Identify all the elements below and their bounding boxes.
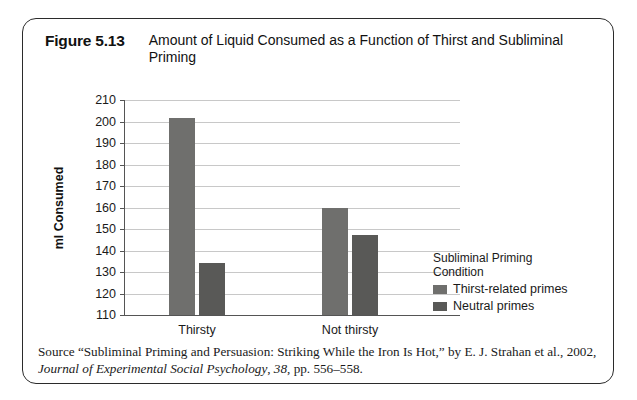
y-axis-tick-mark bbox=[120, 251, 125, 252]
y-axis-tick-label: 150 bbox=[95, 222, 116, 236]
legend-title-line-2: Condition bbox=[433, 266, 613, 280]
y-axis-tick-mark bbox=[120, 122, 125, 123]
y-axis-tick-label: 170 bbox=[95, 179, 116, 193]
chart-legend: Subliminal Priming Condition Thirst-rela… bbox=[433, 252, 613, 313]
y-axis-title-label: ml Consumed bbox=[52, 166, 66, 249]
source-line-1: Source “Subliminal Priming and Persuasio… bbox=[38, 344, 596, 359]
figure-number: Figure 5.13 bbox=[45, 32, 125, 50]
bar bbox=[322, 208, 348, 316]
y-axis-tick-label: 210 bbox=[95, 93, 116, 107]
y-axis-tick-label: 200 bbox=[95, 115, 116, 129]
legend-title-line-1: Subliminal Priming bbox=[433, 252, 613, 266]
y-axis-tick-mark bbox=[120, 294, 125, 295]
y-axis-tick-mark bbox=[120, 165, 125, 166]
source-pages: , pp. 556–558. bbox=[287, 361, 363, 376]
source-separator: , bbox=[267, 361, 274, 376]
source-journal-title: Journal of Experimental Social Psycholog… bbox=[38, 361, 267, 376]
bar bbox=[199, 263, 225, 315]
legend-entry: Neutral primes bbox=[433, 299, 613, 313]
legend-swatch bbox=[433, 285, 447, 294]
legend-label: Thirst-related primes bbox=[453, 282, 568, 296]
x-axis-category-label: Not thirsty bbox=[322, 323, 378, 337]
y-axis-tick-label: 120 bbox=[95, 287, 116, 301]
y-axis-tick-mark bbox=[120, 186, 125, 187]
y-axis-tick-label: 110 bbox=[96, 308, 116, 322]
figure-header: Figure 5.13 Amount of Liquid Consumed as… bbox=[45, 32, 585, 66]
bar bbox=[169, 118, 195, 315]
y-axis-tick-label: 180 bbox=[95, 158, 116, 172]
y-axis-tick-mark bbox=[120, 208, 125, 209]
source-note: Source “Subliminal Priming and Persuasio… bbox=[38, 344, 598, 377]
plot-area: 110120130140150160170180190200210 Thirst… bbox=[124, 100, 460, 316]
legend-entries: Thirst-related primesNeutral primes bbox=[433, 282, 613, 313]
source-volume: 38 bbox=[274, 361, 287, 376]
legend-entry: Thirst-related primes bbox=[433, 282, 613, 296]
y-axis-tick-label: 140 bbox=[95, 244, 116, 258]
bar bbox=[352, 235, 378, 315]
y-axis-tick-label: 130 bbox=[95, 265, 116, 279]
y-axis-title: ml Consumed bbox=[50, 100, 68, 315]
y-axis-tick-label: 160 bbox=[95, 201, 116, 215]
figure-title: Amount of Liquid Consumed as a Function … bbox=[149, 32, 585, 66]
chart-area: ml Consumed 1101201301401501601701801902… bbox=[24, 92, 614, 332]
legend-swatch bbox=[433, 302, 447, 311]
y-axis-tick-mark bbox=[120, 229, 125, 230]
gridline bbox=[125, 100, 460, 101]
y-axis-tick-mark bbox=[120, 100, 125, 101]
legend-label: Neutral primes bbox=[453, 299, 534, 313]
y-axis-tick-mark bbox=[120, 272, 125, 273]
y-axis-tick-label: 190 bbox=[95, 136, 116, 150]
y-axis-tick-mark bbox=[120, 143, 125, 144]
x-axis-category-label: Thirsty bbox=[178, 323, 216, 337]
y-axis-tick-mark bbox=[120, 315, 125, 316]
